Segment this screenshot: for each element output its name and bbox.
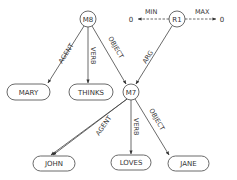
edge-m7-john-line (53, 99, 127, 155)
node-jane: JANE (168, 156, 209, 171)
node-jane-label: JANE (179, 160, 196, 168)
node-loves-label: LOVES (120, 159, 143, 167)
edge-label-m7-loves: VERB (132, 118, 140, 136)
lower-subtree: AGENT VERB OBJECT JOHN LOVES JANE (0, 0, 237, 180)
edge-label-m7-jane: OBJECT (147, 107, 166, 132)
node-john: JOHN (33, 156, 75, 171)
node-loves: LOVES (111, 155, 151, 170)
node-john-label: JOHN (44, 160, 63, 168)
edge-label-m7-john: AGENT (94, 114, 113, 137)
